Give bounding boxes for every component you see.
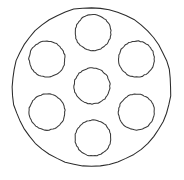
- hole-lower-left: [29, 94, 65, 131]
- hole-upper-right: [119, 41, 155, 77]
- shape-layer: [12, 8, 171, 166]
- hole-lower-right: [118, 94, 154, 130]
- circle-pattern-diagram: [0, 0, 184, 180]
- diagram-canvas: [0, 0, 184, 180]
- hole-bottom: [75, 120, 111, 156]
- hole-center: [74, 68, 110, 105]
- hole-top: [75, 14, 111, 50]
- hole-upper-left: [29, 41, 65, 77]
